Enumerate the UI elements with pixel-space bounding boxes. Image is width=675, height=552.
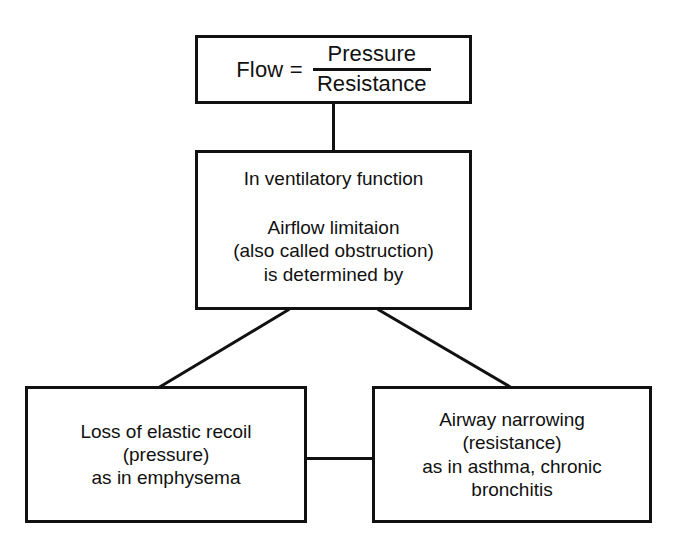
diagram-canvas: Flow = Pressure Resistance In ventilator… <box>0 0 675 552</box>
connector-middle-to-airway <box>379 310 512 388</box>
recoil-line-1: Loss of elastic recoil <box>80 420 251 443</box>
connector-recoil-to-airway <box>305 457 374 460</box>
flow-equation: Flow = Pressure Resistance <box>236 43 431 96</box>
node-airway-narrowing: Airway narrowing (resistance) as in asth… <box>372 386 652 523</box>
recoil-line-2: (pressure) <box>123 443 210 466</box>
node-flow-equation: Flow = Pressure Resistance <box>195 35 472 104</box>
fraction-numerator: Pressure <box>325 43 418 66</box>
node-loss-of-elastic-recoil: Loss of elastic recoil (pressure) as in … <box>25 386 307 523</box>
connector-middle-to-recoil <box>158 310 288 388</box>
node-ventilatory-function: In ventilatory function Airflow limitaio… <box>195 150 472 310</box>
airway-line-2: (resistance) <box>462 431 561 454</box>
airway-line-1: Airway narrowing <box>439 408 585 431</box>
middle-line-2: Airflow limitaion <box>268 216 400 239</box>
equation-fraction: Pressure Resistance <box>313 43 431 96</box>
middle-line-1: In ventilatory function <box>244 167 424 190</box>
middle-line-3: (also called obstruction) <box>233 239 434 262</box>
fraction-denominator: Resistance <box>315 73 429 96</box>
equation-left-hand-side: Flow = <box>236 57 303 83</box>
airway-line-3: as in asthma, chronic <box>422 455 602 478</box>
middle-line-4: is determined by <box>264 263 403 286</box>
connector-equation-to-middle <box>332 102 335 152</box>
recoil-line-3: as in emphysema <box>92 466 241 489</box>
airway-line-4: bronchitis <box>471 478 552 501</box>
